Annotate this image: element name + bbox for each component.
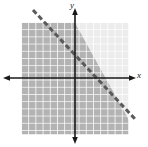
y-axis-arrow-down [72, 137, 78, 144]
coordinate-plane-svg [0, 0, 148, 147]
y-axis-label: y [70, 1, 74, 10]
linear-inequality-graph: y x [0, 0, 148, 147]
x-axis-arrow-left [3, 75, 10, 81]
x-axis-label: x [137, 71, 141, 80]
x-axis-arrow-right [129, 75, 136, 81]
